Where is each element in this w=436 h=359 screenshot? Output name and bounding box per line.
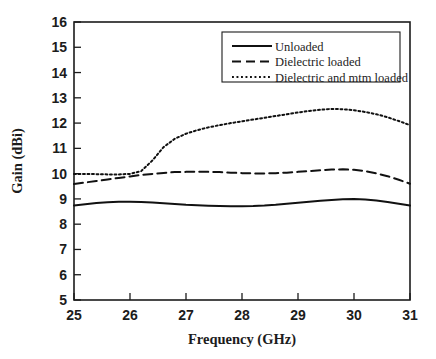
x-tick-label: 31 <box>402 307 418 323</box>
y-tick-label: 6 <box>59 267 67 283</box>
x-tick-label: 30 <box>346 307 362 323</box>
legend[interactable]: UnloadedDielectric loadedDielectric and … <box>222 32 409 85</box>
y-tick-label: 7 <box>59 241 67 257</box>
y-tick-label: 13 <box>51 90 67 106</box>
x-tick-label: 25 <box>66 307 82 323</box>
y-axis-title: Gain (dBi) <box>9 128 26 194</box>
y-tick-label: 10 <box>51 166 67 182</box>
y-tick-label: 8 <box>59 216 67 232</box>
legend-label: Unloaded <box>275 40 324 54</box>
y-tick-label: 12 <box>51 115 67 131</box>
y-tick-label: 14 <box>51 65 67 81</box>
y-tick-label: 11 <box>52 140 67 156</box>
x-tick-label: 28 <box>234 307 250 323</box>
y-tick-label: 15 <box>51 39 67 55</box>
legend-label: Dielectric loaded <box>275 55 361 69</box>
y-tick-label: 5 <box>59 292 67 308</box>
x-tick-label: 29 <box>290 307 306 323</box>
y-tick-label: 9 <box>59 191 67 207</box>
chart-svg: 5678910111213141516 25262728293031 Frequ… <box>0 0 436 359</box>
x-tick-label: 27 <box>178 307 194 323</box>
x-tick-label: 26 <box>122 307 138 323</box>
gain-vs-frequency-chart: 5678910111213141516 25262728293031 Frequ… <box>0 0 436 359</box>
y-tick-label: 16 <box>51 14 67 30</box>
x-axis-title: Frequency (GHz) <box>188 331 296 348</box>
legend-label: Dielectric and mtm loaded <box>275 71 409 85</box>
